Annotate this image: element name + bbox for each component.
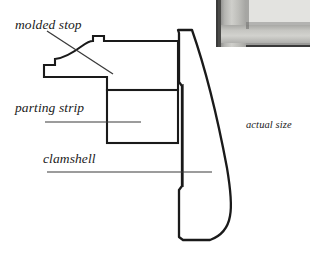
parting-strip-outline xyxy=(107,90,178,143)
photo-shadow-horizontal xyxy=(246,22,310,25)
label-actual-size: actual size xyxy=(246,120,292,131)
photo-edge-dark xyxy=(218,0,221,47)
label-clamshell: clamshell xyxy=(43,152,96,166)
label-parting-strip: parting strip xyxy=(15,101,84,115)
molded-stop-outline xyxy=(44,36,178,90)
photo-frame-body xyxy=(216,0,310,47)
label-molded-stop: molded stop xyxy=(15,18,82,32)
clamshell-outline xyxy=(178,30,231,240)
frame-photo-inset xyxy=(216,0,310,47)
figure-page: molded stop parting strip clamshell actu… xyxy=(0,0,310,260)
photo-jamb-horizontal xyxy=(220,25,310,43)
